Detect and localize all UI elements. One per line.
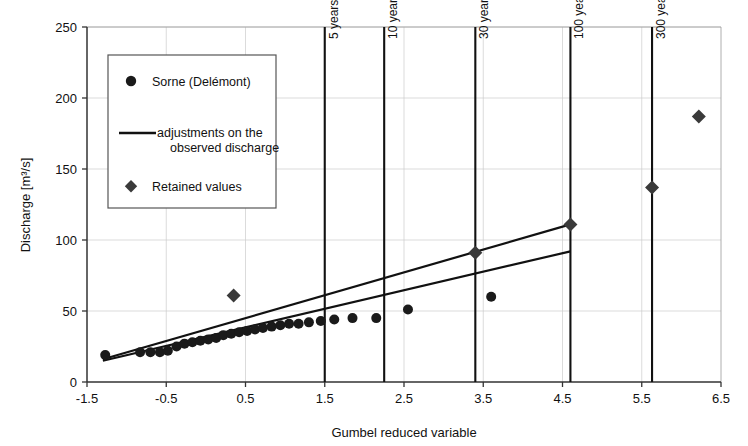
data-point-diamond [227,288,241,302]
x-tick-label: 5.5 [633,391,651,406]
data-point-diamond [645,180,659,194]
data-point-circle [100,350,110,360]
y-tick-label: 200 [55,91,77,106]
legend-label-observed: Sorne (Delémont) [152,75,251,89]
x-tick-label: 4.5 [553,391,571,406]
y-tick-label: 100 [55,233,77,248]
y-tick-label: 0 [70,375,77,390]
x-tick-label: 3.5 [474,391,492,406]
data-point-circle [316,316,326,326]
data-point-circle [145,347,155,357]
data-point-circle [347,313,357,323]
return-period-label: 10 years [386,0,400,39]
return-period-label: 5 years [327,0,341,39]
return-period-labels: 5 years10 years30 years100 years300 year… [327,0,668,39]
gumbel-discharge-chart: 050100150200250-1.5-0.50.51.52.53.54.55.… [0,0,748,446]
data-point-circle [135,347,145,357]
return-period-label: 30 years [477,0,491,39]
y-tick-label: 250 [55,20,77,35]
fit-line [103,224,571,359]
x-tick-label: -1.5 [76,391,98,406]
legend-label-retained: Retained values [152,180,242,194]
legend-label-adjustments-line1: adjustments on the [157,126,263,140]
x-axis-title: Gumbel reduced variable [331,425,476,440]
data-point-diamond [563,217,577,231]
data-point-diamond [692,109,706,123]
legend-label-adjustments-line2: observed discharge [170,141,279,155]
data-point-circle [267,322,277,332]
x-tick-label: 1.5 [316,391,334,406]
y-tick-label: 50 [63,304,77,319]
x-tick-label: -0.5 [155,391,177,406]
data-point-circle [294,319,304,329]
return-period-label: 100 years [572,0,586,39]
data-point-circle [403,305,413,315]
x-tick-label: 0.5 [236,391,254,406]
data-point-circle [486,292,496,302]
data-point-circle [304,317,314,327]
data-point-circle [275,320,285,330]
x-tick-label: 6.5 [712,391,730,406]
data-point-circle [284,319,294,329]
legend: Sorne (Delémont) adjustments on the obse… [108,55,279,208]
fit-lines [103,224,571,360]
return-period-lines [325,27,652,382]
chart-canvas: 050100150200250-1.5-0.50.51.52.53.54.55.… [0,0,748,446]
legend-circle-marker-icon [126,76,136,86]
y-axis-title: Discharge [m³/s] [18,158,33,253]
data-point-circle [329,315,339,325]
return-period-label: 300 years [654,0,668,39]
data-point-circle [258,323,268,333]
data-point-diamond [468,246,482,260]
data-point-circle [371,313,381,323]
y-tick-label: 150 [55,162,77,177]
data-point-circle [163,346,173,356]
x-tick-label: 2.5 [395,391,413,406]
